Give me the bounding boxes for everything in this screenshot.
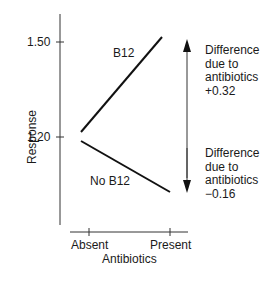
annotation-increase-line-2: due to xyxy=(205,58,259,72)
arrow-down-icon xyxy=(183,180,191,193)
annotation-increase-line-3: antibiotics xyxy=(205,71,259,85)
series-label-no-b12: No B12 xyxy=(90,174,130,188)
annotation-decrease-line-1: Difference xyxy=(205,147,259,161)
x-tick-label-present: Present xyxy=(150,238,191,252)
annotation-increase-value: +0.32 xyxy=(205,85,259,99)
annotation-decrease: Difference due to antibiotics −0.16 xyxy=(205,147,259,201)
arrow-up-icon xyxy=(183,39,191,52)
x-axis-label: Antibiotics xyxy=(102,252,157,266)
series-label-b12: B12 xyxy=(113,46,134,60)
x-tick-label-absent: Absent xyxy=(71,238,108,252)
annotation-decrease-line-2: due to xyxy=(205,161,259,175)
annotation-increase-line-1: Difference xyxy=(205,44,259,58)
y-tick-label-1-50: 1.50 xyxy=(27,35,50,49)
annotation-decrease-line-3: antibiotics xyxy=(205,174,259,188)
y-axis-label: Response xyxy=(25,110,39,164)
annotation-decrease-value: −0.16 xyxy=(205,188,259,202)
annotation-increase: Difference due to antibiotics +0.32 xyxy=(205,44,259,98)
